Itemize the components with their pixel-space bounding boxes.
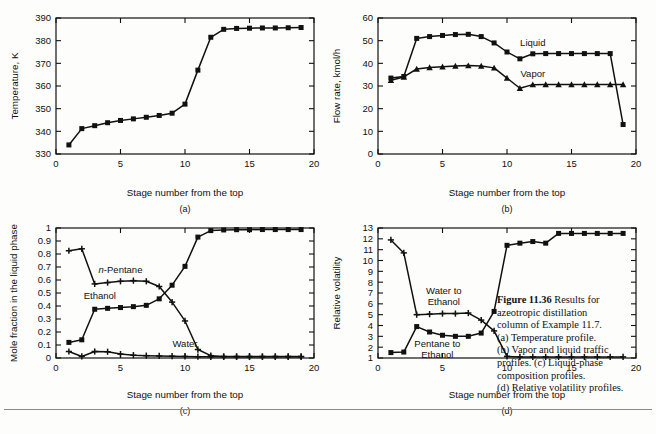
x-tick-label: 0 <box>53 158 58 169</box>
y-tick-label: 40 <box>362 58 373 69</box>
series-markers <box>66 227 303 345</box>
series-markers <box>388 62 627 91</box>
y-tick-label: 360 <box>35 80 51 91</box>
series-annotation: Water to <box>426 285 462 296</box>
x-tick-label: 5 <box>440 158 445 169</box>
y-tick-label: 1 <box>368 352 373 363</box>
y-tick-label: 1 <box>46 222 51 233</box>
x-axis-label: Stage number from the top <box>449 187 566 198</box>
panel-label: (c) <box>180 406 191 416</box>
series-annotation: Pentane to <box>414 338 460 349</box>
x-tick-label: 20 <box>309 362 320 373</box>
y-tick-label: 0 <box>46 352 51 363</box>
x-tick-label: 10 <box>180 362 191 373</box>
y-tick-label: 0.9 <box>38 235 51 246</box>
caption-line-3: column of Example 11.7. <box>497 319 653 332</box>
y-tick-label: 0.8 <box>38 248 51 259</box>
x-tick-label: 0 <box>375 362 380 373</box>
y-tick-label: 9 <box>368 266 373 277</box>
y-tick-label: 30 <box>362 80 373 91</box>
series-annotation: Ethanol <box>421 349 453 360</box>
x-tick-label: 15 <box>244 158 255 169</box>
y-tick-label: 6 <box>368 298 373 309</box>
y-tick-label: 7 <box>368 287 373 298</box>
y-tick-label: 0 <box>368 148 373 159</box>
y-tick-label: 330 <box>35 148 51 159</box>
chart-a: 33034035036037038039005101520Stage numbe… <box>4 2 328 216</box>
y-tick-label: 2 <box>368 342 373 353</box>
y-tick-label: 8 <box>368 277 373 288</box>
x-axis-label: Stage number from the top <box>127 389 244 400</box>
y-tick-label: 380 <box>35 35 51 46</box>
figure-number: Figure 11.36 <box>497 294 552 305</box>
y-tick-label: 340 <box>35 126 51 137</box>
y-tick-label: 5 <box>368 309 373 320</box>
y-tick-label: 390 <box>35 12 51 23</box>
x-tick-label: 0 <box>375 158 380 169</box>
series-markers <box>66 25 303 147</box>
y-tick-label: 0.1 <box>38 339 51 350</box>
caption-line-1: Figure 11.36 Results for <box>497 294 653 307</box>
series-annotation: Water <box>173 338 198 349</box>
y-tick-label: 0.5 <box>38 287 51 298</box>
chart-b: 010203040506005101520LiquidVaporStage nu… <box>326 2 650 216</box>
y-tick-label: 0.4 <box>38 300 51 311</box>
y-tick-label: 0.6 <box>38 274 51 285</box>
y-tick-label: 13 <box>362 222 373 233</box>
x-axis-label: Stage number from the top <box>127 187 244 198</box>
chart-panel-a: 33034035036037038039005101520Stage numbe… <box>4 2 328 216</box>
caption-line-8: (d) Relative volatility profiles. <box>497 382 653 395</box>
x-tick-label: 15 <box>566 158 577 169</box>
y-tick-label: 350 <box>35 103 51 114</box>
x-tick-label: 0 <box>53 362 58 373</box>
figure-page: 33034035036037038039005101520Stage numbe… <box>0 0 656 434</box>
panel-label: (d) <box>502 406 513 416</box>
caption-line-2: azeotropic distillation <box>497 307 653 320</box>
x-tick-label: 5 <box>118 362 123 373</box>
chart-panel-b: 010203040506005101520LiquidVaporStage nu… <box>326 2 650 216</box>
caption-line-4: (a) Temperature profile. <box>497 332 653 345</box>
x-tick-label: 10 <box>502 158 513 169</box>
x-tick-label: 5 <box>118 158 123 169</box>
chart-c: 00.10.20.30.40.50.60.70.80.9105101520n-P… <box>4 216 328 416</box>
y-axis-label: Temperature, K <box>9 52 20 119</box>
y-axis-label: Mole fraction in the liquid phase <box>8 224 19 362</box>
y-tick-label: 3 <box>368 331 373 342</box>
series-annotation: Vapor <box>520 68 545 79</box>
series-line <box>69 28 301 145</box>
caption-line-6: profiles. (c) Liquid-phase <box>497 357 653 370</box>
x-tick-label: 20 <box>631 158 642 169</box>
series-annotation: n-Pentane <box>99 264 143 275</box>
page-divider-rule <box>4 409 652 410</box>
y-tick-label: 10 <box>362 255 373 266</box>
y-axis-label: Flow rate, kmol/h <box>331 49 342 124</box>
series-annotation: Liquid <box>520 37 545 48</box>
y-tick-label: 11 <box>363 244 373 255</box>
series-line <box>69 230 301 343</box>
caption-line-7: composition profiles. <box>497 370 653 383</box>
y-tick-label: 0.2 <box>38 326 51 337</box>
x-tick-label: 5 <box>440 362 445 373</box>
y-tick-label: 60 <box>362 12 373 23</box>
chart-panel-c: 00.10.20.30.40.50.60.70.80.9105101520n-P… <box>4 216 328 416</box>
y-tick-label: 20 <box>362 103 373 114</box>
y-axis-label: Relative volatility <box>331 256 342 329</box>
y-tick-label: 0.7 <box>38 261 51 272</box>
panel-label: (b) <box>502 204 513 214</box>
x-tick-label: 15 <box>244 362 255 373</box>
y-tick-label: 10 <box>362 126 373 137</box>
y-tick-label: 4 <box>368 320 373 331</box>
series-annotation: Ethanol <box>84 290 116 301</box>
caption-line-5: (b) Vapor and liquid traffic <box>497 344 653 357</box>
panel-label: (a) <box>180 204 191 214</box>
x-tick-label: 20 <box>309 158 320 169</box>
y-tick-label: 12 <box>362 233 373 244</box>
x-tick-label: 10 <box>180 158 191 169</box>
y-tick-label: 50 <box>362 35 373 46</box>
plot-frame <box>56 18 314 154</box>
y-tick-label: 370 <box>35 58 51 69</box>
figure-caption: Figure 11.36 Results for azeotropic dist… <box>497 294 653 395</box>
caption-text-1: Results for <box>554 294 599 305</box>
y-tick-label: 0.3 <box>38 313 51 324</box>
series-annotation: Ethanol <box>428 296 460 307</box>
